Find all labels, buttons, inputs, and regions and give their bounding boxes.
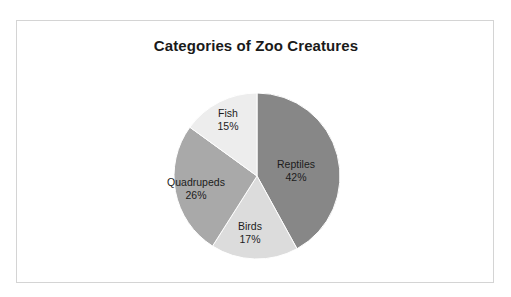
pie-chart: Reptiles 42% Birds 17% Quadrupeds 26% Fi… <box>157 81 357 271</box>
chart-title: Categories of Zoo Creatures <box>17 37 495 54</box>
chart-frame: Categories of Zoo Creatures Reptiles 42%… <box>16 20 494 283</box>
pie-chart-svg <box>157 81 357 271</box>
pie-slice-group <box>174 93 340 259</box>
screenshot-root: Categories of Zoo Creatures Reptiles 42%… <box>0 0 511 297</box>
